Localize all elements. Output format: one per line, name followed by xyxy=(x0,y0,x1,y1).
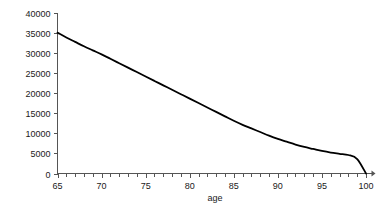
series-line-survivors xyxy=(58,33,367,174)
x-tick-marks xyxy=(59,174,367,179)
y-tick-marks xyxy=(54,14,58,175)
y-tick-label: 35000 xyxy=(25,29,50,39)
x-tick-label: 75 xyxy=(141,181,151,191)
line-chart: 0500010000150002000025000300003500040000… xyxy=(0,0,389,214)
y-tick-label: 5000 xyxy=(30,149,50,159)
x-tick-label-group: 65707580859095100 xyxy=(52,181,373,191)
y-axis: 0500010000150002000025000300003500040000 xyxy=(25,9,57,180)
x-axis-title: age xyxy=(207,193,222,203)
x-axis: 65707580859095100 age xyxy=(52,171,375,204)
data-series-group xyxy=(58,33,367,174)
y-tick-label: 40000 xyxy=(25,9,50,19)
x-tick-label: 65 xyxy=(52,181,62,191)
y-tick-label: 15000 xyxy=(25,109,50,119)
x-axis-arrow-head xyxy=(372,171,376,177)
y-tick-label: 25000 xyxy=(25,69,50,79)
y-tick-label-group: 0500010000150002000025000300003500040000 xyxy=(25,9,50,180)
x-tick-label: 100 xyxy=(358,181,373,191)
x-tick-label: 90 xyxy=(273,181,283,191)
y-tick-label: 20000 xyxy=(25,89,50,99)
y-tick-label: 30000 xyxy=(25,49,50,59)
x-tick-label: 80 xyxy=(185,181,195,191)
x-tick-label: 70 xyxy=(97,181,107,191)
chart-container: 0500010000150002000025000300003500040000… xyxy=(0,0,389,214)
x-tick-label: 85 xyxy=(229,181,239,191)
x-tick-label: 95 xyxy=(317,181,327,191)
y-tick-label: 0 xyxy=(45,170,50,180)
y-tick-label: 10000 xyxy=(25,129,50,139)
